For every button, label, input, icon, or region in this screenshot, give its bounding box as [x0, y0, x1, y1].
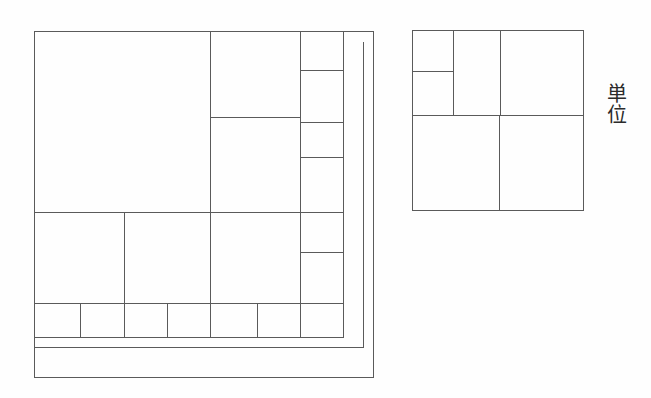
diagram-canvas: 単位: [0, 0, 651, 398]
unit-label-text: 単位: [597, 83, 625, 125]
figure-background: [0, 0, 651, 398]
packing-diagram-figure: [0, 0, 651, 398]
